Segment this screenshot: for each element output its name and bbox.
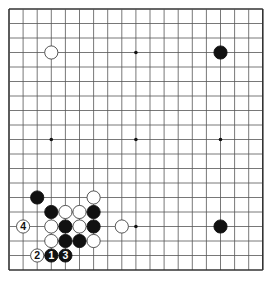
white-stone	[45, 46, 58, 59]
move-number-label: 4	[20, 220, 26, 232]
black-stone	[59, 234, 72, 247]
black-stone	[31, 191, 44, 204]
star-point	[134, 225, 138, 229]
white-stone: 2	[31, 249, 44, 262]
black-stone	[73, 234, 86, 247]
black-stone	[87, 205, 100, 218]
white-stone	[45, 220, 58, 233]
white-stone	[115, 220, 128, 233]
star-point	[219, 138, 223, 142]
black-stone	[214, 220, 227, 233]
star-point	[50, 138, 54, 142]
black-stone	[214, 46, 227, 59]
move-number-label: 2	[34, 249, 40, 261]
star-point	[134, 138, 138, 142]
white-stone	[87, 191, 100, 204]
white-stone	[73, 220, 86, 233]
move-number-label: 1	[48, 249, 54, 261]
move-number-label: 3	[62, 249, 68, 261]
star-point	[134, 51, 138, 55]
black-stone	[45, 205, 58, 218]
white-stone	[59, 205, 72, 218]
black-stone: 3	[59, 249, 72, 262]
white-stone	[73, 205, 86, 218]
black-stone	[59, 220, 72, 233]
white-stone	[45, 234, 58, 247]
black-stone: 1	[45, 249, 58, 262]
black-stone	[87, 220, 100, 233]
white-stone	[87, 234, 100, 247]
white-stone: 4	[17, 220, 30, 233]
go-board: 4213	[0, 0, 268, 285]
